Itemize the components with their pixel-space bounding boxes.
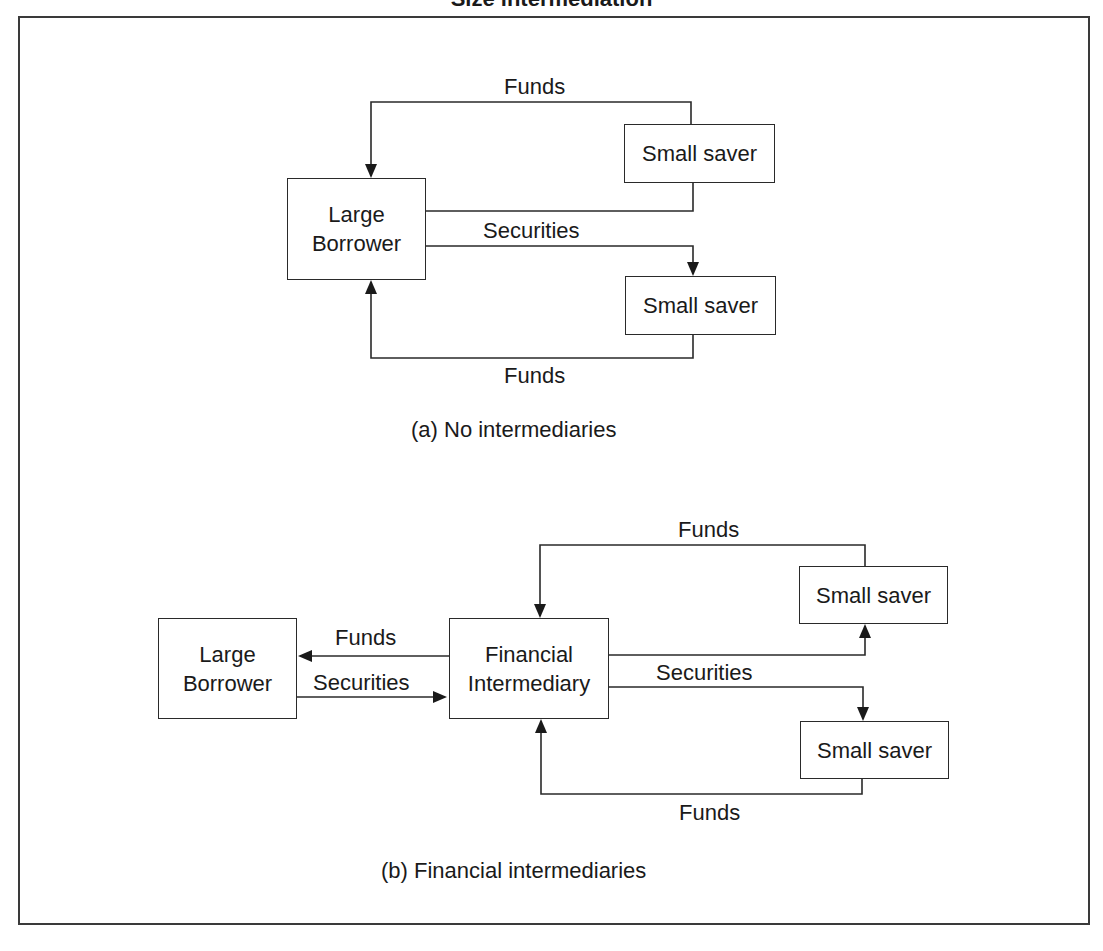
- a-securities-line: [425, 246, 693, 263]
- arrowhead-down-icon: [857, 707, 869, 721]
- a-borrower-to-saver-top-line: [425, 182, 693, 211]
- b-large-borrower-node: Large Borrower: [158, 618, 297, 719]
- b-intermediary-to-saver-top-line: [608, 636, 865, 655]
- b-caption: (b) Financial intermediaries: [381, 859, 646, 883]
- connector-lines: [0, 0, 1103, 951]
- b-funds-bottom-label: Funds: [679, 801, 740, 825]
- b-financial-intermediary-node: Financial Intermediary: [449, 618, 609, 719]
- a-caption: (a) No intermediaries: [411, 418, 616, 442]
- b-securities-to-saver-bottom-line: [608, 687, 863, 708]
- a-funds-bottom-label: Funds: [504, 364, 565, 388]
- a-large-borrower-node: Large Borrower: [287, 178, 426, 280]
- b-funds-top-label: Funds: [678, 518, 739, 542]
- a-securities-label: Securities: [483, 219, 580, 243]
- b-small-saver-bottom-node: Small saver: [800, 721, 949, 779]
- a-small-saver-bottom-node: Small saver: [625, 276, 776, 335]
- arrowhead-down-icon: [534, 604, 546, 618]
- arrowhead-right-icon: [433, 691, 447, 703]
- arrowhead-up-icon: [859, 624, 871, 638]
- arrowhead-up-icon: [535, 719, 547, 733]
- b-funds-to-borrower-label: Funds: [335, 626, 396, 650]
- b-securities-to-intermediary-label: Securities: [313, 671, 410, 695]
- arrowhead-left-icon: [298, 650, 312, 662]
- arrowhead-down-icon: [365, 164, 377, 178]
- b-small-saver-top-node: Small saver: [799, 566, 948, 624]
- arrowhead-up-icon: [365, 280, 377, 294]
- arrowhead-down-icon: [687, 262, 699, 276]
- a-funds-top-label: Funds: [504, 75, 565, 99]
- b-securities-to-savers-label: Securities: [656, 661, 753, 685]
- a-small-saver-top-node: Small saver: [624, 124, 775, 183]
